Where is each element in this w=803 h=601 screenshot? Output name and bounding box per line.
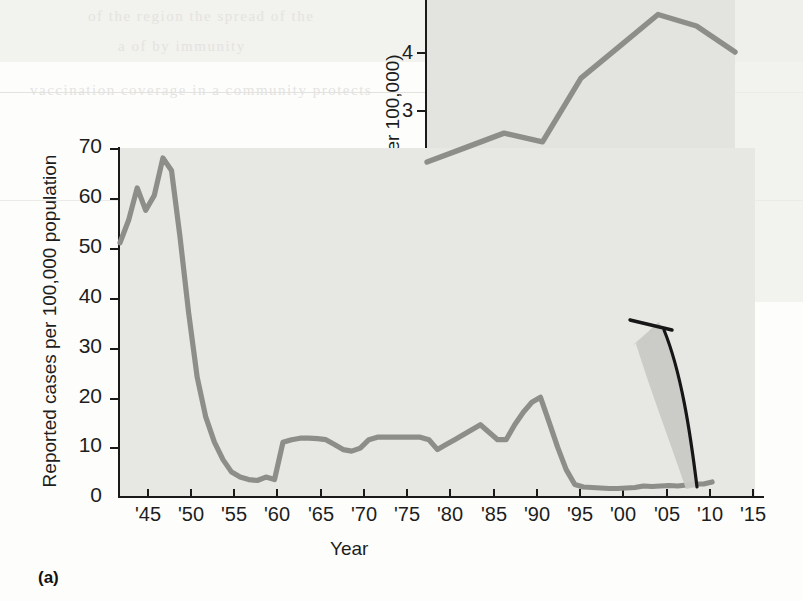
figure-panel-label: (a)	[38, 568, 59, 588]
main-plot-area	[120, 148, 755, 497]
main-y-tick-10	[110, 447, 119, 449]
main-x-tick-50	[190, 489, 192, 498]
main-x-label-80: '80	[428, 503, 472, 526]
main-x-tick-00	[622, 489, 624, 498]
main-x-tick-15	[752, 489, 754, 498]
main-y-tick-20	[110, 398, 119, 400]
main-x-label-90: '90	[515, 503, 559, 526]
main-x-tick-55	[233, 489, 235, 498]
main-y-tick-50	[110, 248, 119, 250]
main-x-label-60: '60	[255, 503, 299, 526]
main-x-label-45: '45	[126, 503, 170, 526]
main-y-tick-30	[110, 348, 119, 350]
main-x-tick-95	[579, 489, 581, 498]
main-x-label-15: '15	[731, 503, 775, 526]
main-y-axis-title: Reported cases per 100,000 population	[39, 121, 61, 521]
main-x-tick-60	[276, 489, 278, 498]
main-x-label-50: '50	[169, 503, 213, 526]
page-background: of the region the spread of thea of by i…	[0, 0, 803, 601]
main-y-tick-40	[110, 298, 119, 300]
main-x-label-05: '05	[645, 503, 689, 526]
main-x-label-75: '75	[385, 503, 429, 526]
main-x-label-65: '65	[299, 503, 343, 526]
main-x-label-95: '95	[558, 503, 602, 526]
main-chart: 70 60 50 40 30 20 10 0 '45 '50 '55 '60 '…	[0, 0, 803, 601]
main-x-label-00: '00	[601, 503, 645, 526]
main-x-label-55: '55	[212, 503, 256, 526]
main-y-tick-0	[110, 497, 119, 499]
main-x-tick-80	[449, 489, 451, 498]
main-x-tick-85	[493, 489, 495, 498]
main-x-tick-05	[666, 489, 668, 498]
main-y-tick-70	[110, 148, 119, 150]
main-x-label-70: '70	[342, 503, 386, 526]
main-x-label-10: '10	[688, 503, 732, 526]
main-x-axis-title: Year	[330, 538, 368, 560]
main-x-tick-90	[536, 489, 538, 498]
main-y-tick-60	[110, 198, 119, 200]
main-x-tick-75	[406, 489, 408, 498]
main-x-tick-65	[320, 489, 322, 498]
main-x-tick-45	[147, 489, 149, 498]
main-x-tick-70	[363, 489, 365, 498]
main-x-tick-10	[709, 489, 711, 498]
main-x-label-85: '85	[472, 503, 516, 526]
